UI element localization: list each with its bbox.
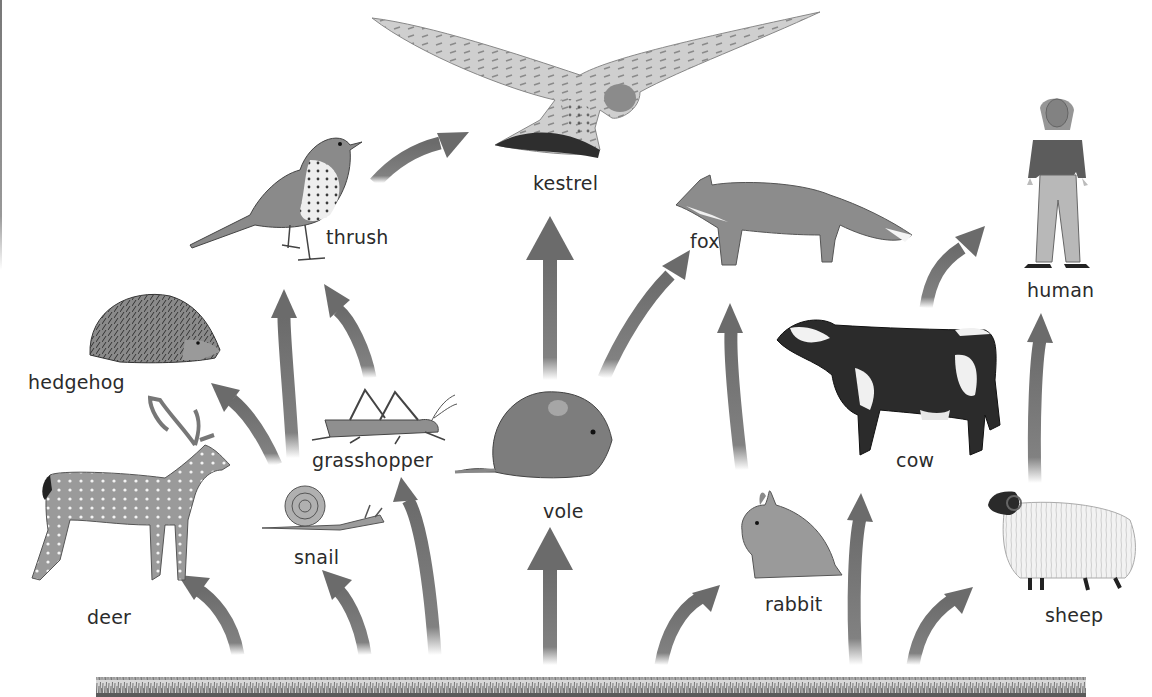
label-cow: cow <box>896 451 934 470</box>
arrow-vole-to-kestrel <box>526 216 574 380</box>
snail-illustration <box>262 486 384 530</box>
arrow-grasshopper-to-thrush <box>324 284 370 378</box>
arrow-rabbit-to-fox <box>717 303 743 470</box>
label-fox: fox <box>690 232 720 251</box>
arrow-grass-to-deer <box>178 575 238 655</box>
label-rabbit: rabbit <box>765 595 823 614</box>
label-kestrel: kestrel <box>533 174 598 193</box>
grasshopper-illustration <box>312 390 457 444</box>
arrow-grass-to-cow <box>847 493 873 665</box>
label-deer: deer <box>87 608 131 627</box>
arrow-grass-to-snail <box>322 570 365 655</box>
label-snail: snail <box>294 548 339 567</box>
arrow-snail-to-hedgehog <box>211 383 276 465</box>
label-vole: vole <box>543 502 584 521</box>
label-thrush: thrush <box>326 228 389 247</box>
arrow-vole-to-fox <box>604 250 690 378</box>
arrow-grass-to-rabbit <box>661 585 720 665</box>
arrow-sheep-to-human <box>1027 313 1053 483</box>
label-human: human <box>1027 281 1094 300</box>
hedgehog-illustration <box>90 294 220 362</box>
deer-illustration <box>32 398 230 580</box>
arrow-grass-to-vole <box>527 527 573 665</box>
food-web-diagram: kestrel thrush fox human hedgehog grassh… <box>0 0 1152 697</box>
label-sheep: sheep <box>1045 606 1103 625</box>
arrow-grass-to-grasshopper <box>393 477 435 655</box>
arrow-cow-to-human <box>926 226 985 308</box>
human-illustration <box>1024 98 1090 268</box>
vole-illustration <box>455 392 612 478</box>
rabbit-illustration <box>742 491 842 578</box>
diagram-canvas <box>0 0 1152 697</box>
label-hedgehog: hedgehog <box>28 373 125 392</box>
arrow-thrush-to-kestrel <box>375 132 469 183</box>
cow-illustration <box>777 320 1000 455</box>
label-grasshopper: grasshopper <box>312 451 433 470</box>
grass-producer <box>96 677 1086 697</box>
arrow-grass-to-sheep <box>913 587 973 665</box>
arrow-snail-to-thrush <box>271 289 297 458</box>
sheep-illustration <box>988 492 1135 590</box>
